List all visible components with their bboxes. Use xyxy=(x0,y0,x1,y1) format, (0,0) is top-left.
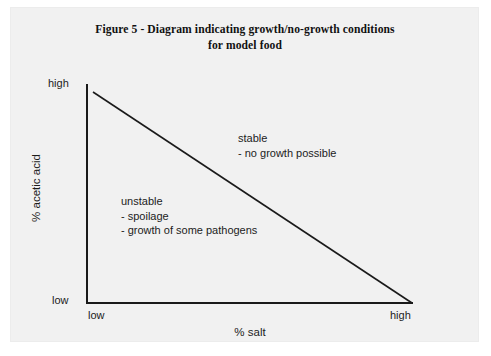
annotation-unstable-heading: unstable xyxy=(121,194,257,209)
annotation-stable: stable - no growth possible xyxy=(238,131,336,160)
y-axis-tick-low: low xyxy=(52,294,69,306)
x-axis-title: % salt xyxy=(160,326,340,338)
x-axis-tick-low: low xyxy=(88,309,105,321)
annotation-unstable-item-1: - growth of some pathogens xyxy=(121,223,257,238)
figure-caption-line-2: for model food xyxy=(40,38,450,54)
y-axis-title: % acetic acid xyxy=(30,128,42,248)
figure-caption: Figure 5 - Diagram indicating growth/no-… xyxy=(40,22,450,54)
figure-caption-line-1: Figure 5 - Diagram indicating growth/no-… xyxy=(95,23,394,36)
annotation-unstable: unstable - spoilage - growth of some pat… xyxy=(121,194,257,238)
annotation-stable-heading: stable xyxy=(238,131,336,146)
x-axis-tick-high: high xyxy=(390,309,411,321)
y-axis-tick-high: high xyxy=(48,77,69,89)
figure-page: Figure 5 - Diagram indicating growth/no-… xyxy=(0,0,491,356)
annotation-stable-item-0: - no growth possible xyxy=(238,146,336,161)
annotation-unstable-item-0: - spoilage xyxy=(121,209,257,224)
